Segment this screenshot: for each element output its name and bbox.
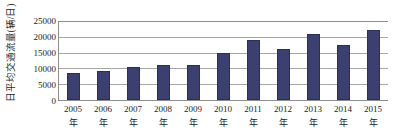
bar [217,53,230,100]
bar-slot [149,21,179,100]
y-tick-label: 20000 [34,33,57,42]
x-tick-year: 2006 [88,103,118,116]
x-tick-unit: 年 [118,116,148,131]
x-tick-unit: 年 [298,116,328,131]
y-axis-title: 日平均交通流量(辆/日) [4,0,18,107]
x-tick-label: 2010 年 [208,103,238,131]
bar [67,73,80,100]
x-tick-year: 2011 [238,103,268,116]
x-tick-year: 2005 [58,103,88,116]
bar-slot [59,21,89,100]
x-tick-label: 2013 年 [298,103,328,131]
bar [127,67,140,100]
bar-slot [238,21,268,100]
y-tick-label: 15000 [34,49,57,58]
x-tick-label: 2009 年 [178,103,208,131]
x-tick-unit: 年 [178,116,208,131]
x-axis-tick-labels: 2005 年 2006 年 2007 年 2008 年 2009 年 2010 … [58,103,388,131]
x-tick-year: 2014 [328,103,358,116]
x-tick-unit: 年 [238,116,268,131]
y-tick-label: 25000 [34,17,57,26]
x-tick-year: 2010 [208,103,238,116]
x-tick-unit: 年 [268,116,298,131]
x-tick-unit: 年 [328,116,358,131]
x-tick-year: 2012 [268,103,298,116]
plot-area [58,21,388,101]
bar [187,65,200,100]
bar-slot [328,21,358,100]
bar-slot [298,21,328,100]
x-tick-year: 2008 [148,103,178,116]
bar-slot [358,21,388,100]
bar [367,30,380,100]
bar [247,40,260,100]
x-tick-label: 2006 年 [88,103,118,131]
x-tick-unit: 年 [148,116,178,131]
bar-slot [89,21,119,100]
x-tick-label: 2008 年 [148,103,178,131]
x-tick-unit: 年 [58,116,88,131]
bars-layer [59,21,388,100]
bar [97,71,110,100]
bar-slot [179,21,209,100]
bar-slot [209,21,239,100]
y-tick-label: 0 [52,97,57,106]
x-tick-label: 2012 年 [268,103,298,131]
bar-slot [268,21,298,100]
x-tick-label: 2007 年 [118,103,148,131]
x-tick-label: 2015 年 [358,103,388,131]
y-tick-label: 5000 [38,81,56,90]
x-tick-year: 2013 [298,103,328,116]
bar [277,49,290,100]
y-axis-tick-labels: 25000 20000 15000 10000 5000 0 [22,21,58,101]
y-tick-label: 10000 [34,65,57,74]
bar [157,65,170,100]
x-tick-year: 2009 [178,103,208,116]
bar [337,45,350,100]
bar [307,34,320,100]
bar-slot [119,21,149,100]
x-tick-unit: 年 [88,116,118,131]
x-tick-label: 2014 年 [328,103,358,131]
x-tick-unit: 年 [208,116,238,131]
x-tick-label: 2005 年 [58,103,88,131]
traffic-flow-bar-chart: 日平均交通流量(辆/日) 25000 20000 15000 10000 500… [0,0,394,140]
x-tick-year: 2015 [358,103,388,116]
x-tick-label: 2011 年 [238,103,268,131]
x-tick-year: 2007 [118,103,148,116]
x-tick-unit: 年 [358,116,388,131]
